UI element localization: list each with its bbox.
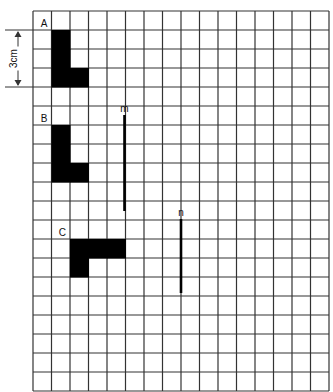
filled-cell xyxy=(52,163,71,183)
filled-cell xyxy=(70,239,89,259)
line-label: m xyxy=(120,103,128,114)
shape-label: A xyxy=(41,18,48,29)
filled-cell xyxy=(52,144,71,164)
shape-a: A xyxy=(41,18,89,88)
mirror-lines: mn xyxy=(120,103,183,293)
shape-label: B xyxy=(41,113,48,124)
filled-cell xyxy=(52,49,71,69)
shape-b: B xyxy=(41,113,89,183)
dim-label: 3cm xyxy=(8,49,19,68)
filled-cell xyxy=(107,239,126,259)
arrow-down-icon xyxy=(15,80,22,86)
line-m: m xyxy=(120,103,128,211)
filled-cell xyxy=(70,258,89,278)
arrow-up-icon xyxy=(15,31,22,37)
dimension-marker: 3cm xyxy=(5,30,33,87)
grid-diagram: ABC mn 3cm xyxy=(0,0,333,392)
filled-cell xyxy=(52,30,71,50)
filled-cell xyxy=(89,239,108,259)
shape-c: C xyxy=(59,227,126,278)
filled-cell xyxy=(70,68,89,88)
filled-cell xyxy=(52,125,71,145)
filled-cell xyxy=(70,163,89,183)
filled-cell xyxy=(52,68,71,88)
shape-label: C xyxy=(59,227,66,238)
line-label: n xyxy=(178,207,184,218)
